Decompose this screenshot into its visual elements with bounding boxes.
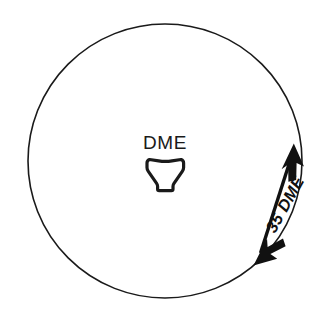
dme-arc-figure: DME 35 DME	[0, 0, 332, 326]
dme-arc-canvas: DME 35 DME	[0, 0, 332, 326]
dme-center-label: DME	[143, 132, 187, 153]
arc-arrow-head-lower	[254, 239, 286, 266]
dme-symbol	[147, 160, 184, 191]
